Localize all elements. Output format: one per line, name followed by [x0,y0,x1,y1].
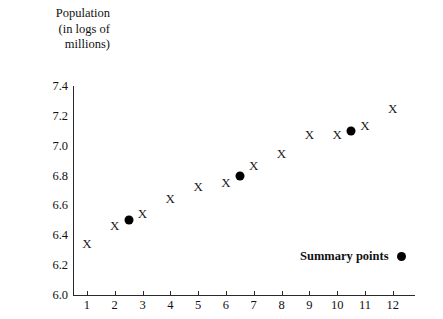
summary-point-marker [347,126,356,135]
y-axis-labels: 6.06.26.46.66.87.07.27.4 [22,0,68,319]
x-axis-tick-label: 8 [270,299,294,312]
x-axis-tick-label: 11 [353,299,377,312]
y-axis-tick-label: 6.2 [24,259,68,272]
data-point-x-marker: X [221,175,230,188]
x-axis-tick-label: 4 [158,299,182,312]
data-point-x-marker: X [193,180,202,193]
plot-area: XXXXXXXXXXXX [73,86,415,296]
x-axis-tick-label: 2 [103,299,127,312]
data-point-x-marker: X [249,159,258,172]
data-point-x-marker: X [138,206,147,219]
legend: Summary points [300,250,406,263]
x-axis-tick-label: 7 [242,299,266,312]
y-axis-tick-label: 7.4 [24,80,68,93]
legend-marker-filled-circle-icon [397,252,406,261]
x-axis-tick-label: 3 [131,299,155,312]
y-axis-tick-label: 7.2 [24,110,68,123]
data-point-x-marker: X [277,147,286,160]
x-axis-tick-label: 1 [75,299,99,312]
legend-label-summary-points: Summary points [300,250,389,263]
summary-point-marker [124,216,133,225]
x-axis-tick-label: 12 [381,299,405,312]
data-point-x-marker: X [332,127,341,140]
y-axis-tick-label: 7.0 [24,139,68,152]
data-point-x-marker: X [110,218,119,231]
x-axis-tick-label: 6 [214,299,238,312]
y-axis-tick-label: 6.0 [24,289,68,302]
data-point-x-marker: X [305,127,314,140]
y-axis-tick-label: 6.6 [24,199,68,212]
x-axis-tick-label: 5 [186,299,210,312]
data-point-x-marker: X [166,191,175,204]
y-axis-tick-label: 6.8 [24,169,68,182]
y-axis-tick-label: 6.4 [24,229,68,242]
summary-point-marker [235,171,244,180]
x-axis-tick-label: 10 [325,299,349,312]
data-point-x-marker: X [360,118,369,131]
data-point-x-marker: X [82,236,91,249]
population-scatter-chart: Population (in logs of millions) 6.06.26… [0,0,443,319]
data-point-x-marker: X [388,102,397,115]
x-axis-tick-label: 9 [297,299,321,312]
